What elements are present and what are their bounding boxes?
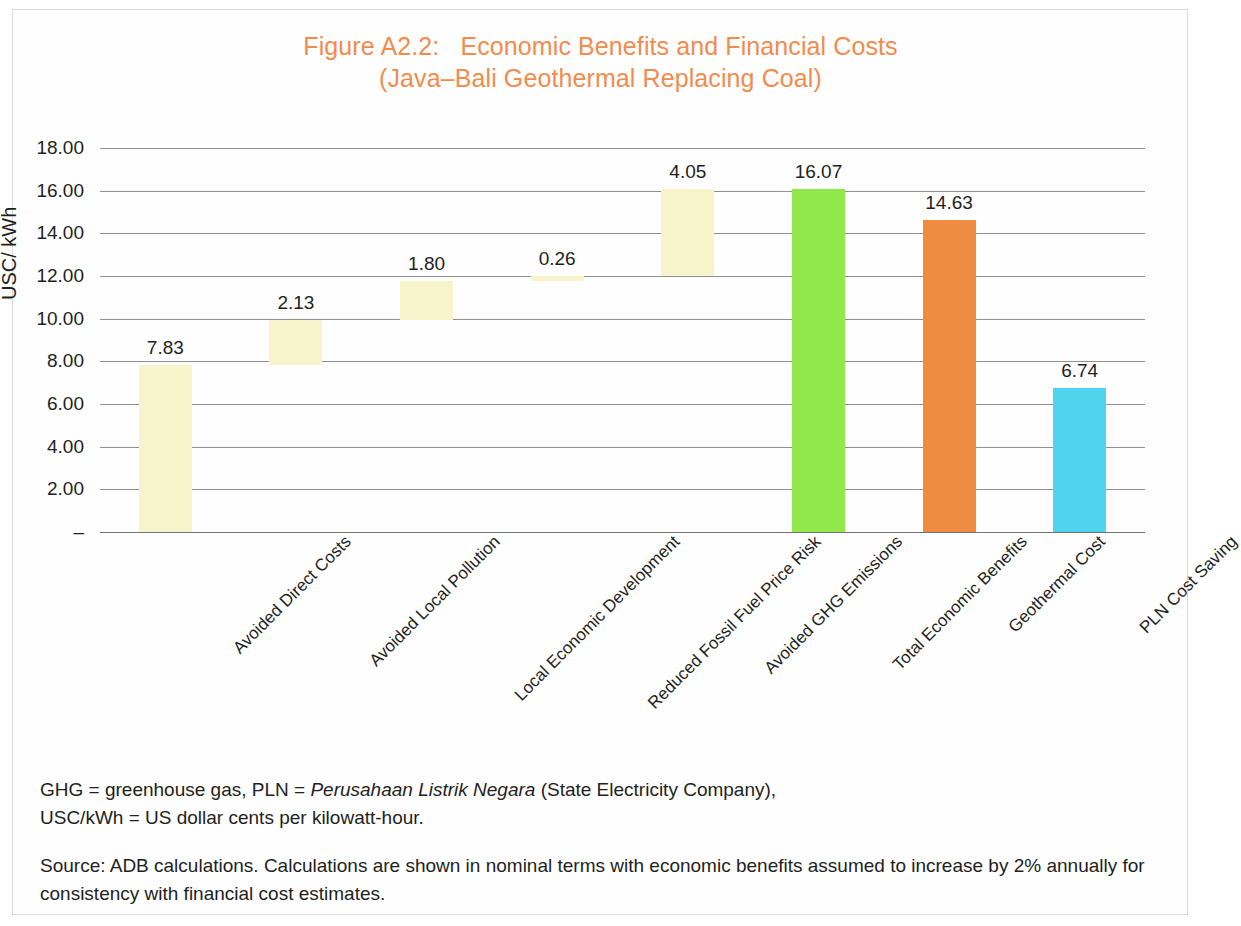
page-title: Figure A2.2: Economic Benefits and Finan… [0, 30, 1201, 94]
bar-value-label: 1.80 [408, 253, 445, 275]
y-axis-tick-label: 4.00 [47, 436, 84, 458]
gridline [100, 319, 1145, 320]
figure-notes: GHG = greenhouse gas, PLN = Perusahaan L… [40, 776, 1150, 926]
bar-value-label: 6.74 [1061, 360, 1098, 382]
gridline [100, 191, 1145, 192]
y-axis-tick-label: 14.00 [36, 222, 84, 244]
bar-value-label: 0.26 [539, 248, 576, 270]
x-axis-tick-label: Reduced Fossil Fuel Price Risk [644, 532, 825, 713]
y-axis-tick-label: 12.00 [36, 265, 84, 287]
y-axis-tick-label: – [73, 521, 84, 543]
x-axis-tick-label: Avoided Local Pollution [366, 532, 505, 671]
gridline [100, 276, 1145, 277]
abbrev-part-1: GHG = greenhouse gas, PLN = [40, 779, 310, 800]
bar-avoided-direct-costs [139, 365, 192, 532]
bar-avoided-local-pollution [269, 320, 322, 365]
abbrev-part-2: (State Electricity Company), [535, 779, 776, 800]
y-axis-tick-label: 10.00 [36, 308, 84, 330]
x-axis-tick-label: Avoided GHG Emissions [761, 532, 907, 678]
bar-value-label: 7.83 [147, 337, 184, 359]
bar-geothermal-cost [923, 220, 976, 532]
source-note: Source: ADB calculations. Calculations a… [40, 852, 1150, 908]
bar-value-label: 16.07 [795, 161, 843, 183]
bar-value-label: 14.63 [925, 192, 973, 214]
bar-avoided-ghg-emissions [661, 189, 714, 275]
abbrev-italic: Perusahaan Listrik Negara [310, 779, 535, 800]
y-axis-tick-label: 8.00 [47, 350, 84, 372]
gridline [100, 148, 1145, 149]
abbreviation-note: GHG = greenhouse gas, PLN = Perusahaan L… [40, 776, 1150, 832]
y-axis-tick-label: 6.00 [47, 393, 84, 415]
y-axis-tick-label: 18.00 [36, 137, 84, 159]
x-axis-tick-label: Total Economic Benefits [890, 532, 1032, 674]
gridline [100, 404, 1145, 405]
x-axis-tick-label: Local Economic Development [510, 532, 683, 705]
bar-reduced-fossil-fuel-price-risk [531, 276, 584, 282]
abbrev-line-2: USC/kWh = US dollar cents per kilowatt-h… [40, 807, 424, 828]
y-axis-tick-label: 2.00 [47, 478, 84, 500]
bar-total-economic-benefits [792, 189, 845, 532]
plot-area: 7.832.131.800.264.0516.0714.636.74 [100, 148, 1145, 532]
gridline [100, 447, 1145, 448]
title-line-2: (Java–Bali Geothermal Replacing Coal) [0, 62, 1201, 94]
bar-value-label: 2.13 [277, 292, 314, 314]
gridline [100, 361, 1145, 362]
x-axis-tick-label: Avoided Direct Costs [230, 532, 356, 658]
bar-value-label: 4.05 [669, 161, 706, 183]
x-axis-tick-labels: Avoided Direct CostsAvoided Local Pollut… [100, 532, 1145, 712]
y-axis-tick-label: 16.00 [36, 180, 84, 202]
y-axis-tick-labels: 18.0016.0014.0012.0010.008.006.004.002.0… [0, 148, 92, 532]
bar-local-economic-development [400, 281, 453, 319]
gridline [100, 489, 1145, 490]
gridline [100, 233, 1145, 234]
bar-pln-cost-saving [1053, 388, 1106, 532]
title-line-1: Figure A2.2: Economic Benefits and Finan… [0, 30, 1201, 62]
